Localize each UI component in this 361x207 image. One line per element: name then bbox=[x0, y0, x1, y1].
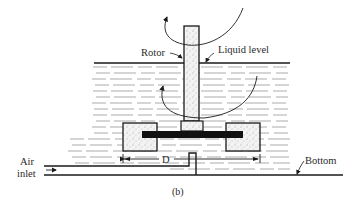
inlet-label: inlet bbox=[17, 168, 36, 179]
bottom-label-leader bbox=[297, 161, 304, 174]
rotor-label-leader bbox=[170, 53, 182, 58]
bottom-label: Bottom bbox=[305, 155, 337, 166]
liquid-level-leader bbox=[206, 53, 214, 62]
air-label: Air bbox=[20, 156, 35, 167]
rotor-hub bbox=[181, 121, 203, 131]
rotor-label: Rotor bbox=[141, 47, 165, 58]
liquid-level-label: Liquid level bbox=[218, 44, 269, 55]
rotor-shaft bbox=[184, 26, 199, 121]
dimension-label: D bbox=[162, 154, 170, 165]
figure-caption: (b) bbox=[172, 186, 184, 198]
flow-curve-upper bbox=[165, 8, 243, 45]
dimension-d: D bbox=[123, 154, 260, 165]
aerator-rotor-diagram: D Rotor Liquid level Air inlet Bottom (b… bbox=[0, 0, 361, 207]
liquid-hatching bbox=[68, 67, 290, 169]
air-inlet-pipe bbox=[44, 153, 196, 175]
